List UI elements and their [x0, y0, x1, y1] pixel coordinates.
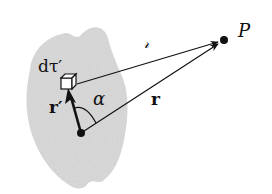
diagram: dτ′ 𝓇 P r′ α r: [0, 0, 272, 194]
diagram-canvas: [0, 0, 272, 194]
angle-label: α: [93, 90, 105, 108]
field-point-dot: [220, 36, 228, 44]
field-vector-label: r: [151, 91, 160, 108]
volume-element-cube: [61, 74, 76, 89]
separation-label: 𝓇: [143, 36, 149, 51]
source-vector-label: r′: [49, 99, 62, 116]
origin-point: [77, 129, 85, 137]
field-point-label: P: [238, 22, 250, 40]
volume-element-label: dτ′: [38, 58, 62, 75]
